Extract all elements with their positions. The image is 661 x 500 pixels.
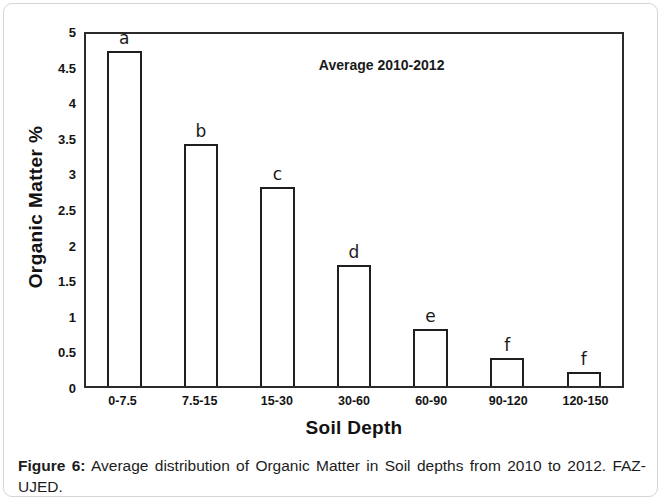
bar[interactable]: c (260, 187, 294, 386)
bar[interactable]: f (490, 358, 524, 386)
bar[interactable]: a (107, 51, 141, 386)
x-axis-tick-label: 15-30 (238, 394, 315, 408)
y-axis-tick-label: 0 (69, 381, 76, 396)
plot-inner: Average 2010-2012 abcdeff (86, 34, 622, 386)
bar-slot: a (86, 34, 163, 386)
bar[interactable]: d (337, 265, 371, 386)
bar-significance-label: f (504, 335, 510, 355)
y-axis-tick-labels: 54.543.532.521.510.50 (40, 32, 76, 388)
x-axis-tick-label: 0-7.5 (84, 394, 161, 408)
bar-significance-label: a (119, 28, 129, 48)
figure-caption-text: Average distribution of Organic Matter i… (18, 457, 646, 495)
plot-frame: Average 2010-2012 abcdeff (84, 32, 624, 388)
bar-chart: Organic Matter % 54.543.532.521.510.50 A… (0, 0, 661, 448)
y-axis-tick-label: 4.5 (58, 60, 76, 75)
bar-slot: e (392, 34, 469, 386)
x-axis-title: Soil Depth (84, 417, 624, 439)
bar-slot: c (239, 34, 316, 386)
x-axis-tick-label: 60-90 (393, 394, 470, 408)
bars-layer: abcdeff (86, 34, 622, 386)
y-axis-tick-label: 3 (69, 167, 76, 182)
y-axis-tick-label: 1.5 (58, 274, 76, 289)
bar[interactable]: e (413, 329, 447, 386)
x-axis-tick-label: 7.5-15 (161, 394, 238, 408)
figure-caption: Figure 6: Average distribution of Organi… (18, 455, 646, 497)
bar-slot: d (316, 34, 393, 386)
y-axis-tick-label: 1 (69, 309, 76, 324)
figure-container: Organic Matter % 54.543.532.521.510.50 A… (0, 0, 661, 500)
y-axis-tick-label: 0.5 (58, 345, 76, 360)
y-axis-tick-label: 2 (69, 238, 76, 253)
bar-significance-label: e (425, 306, 435, 326)
y-axis-tick-label: 5 (69, 25, 76, 40)
bar-slot: f (469, 34, 546, 386)
x-axis-tick-label: 90-120 (470, 394, 547, 408)
x-axis-tick-labels: 0-7.57.5-1515-3030-6060-9090-120120-150 (84, 394, 624, 408)
bar[interactable]: f (567, 372, 601, 386)
y-axis-tick-label: 4 (69, 96, 76, 111)
bar-significance-label: c (273, 164, 282, 184)
figure-caption-label: Figure 6: (18, 457, 86, 474)
bar-significance-label: f (581, 349, 587, 369)
bar-significance-label: b (195, 121, 206, 141)
bar-slot: f (545, 34, 622, 386)
y-axis-tick-label: 3.5 (58, 131, 76, 146)
bar-significance-label: d (349, 242, 360, 262)
x-axis-tick-label: 30-60 (315, 394, 392, 408)
bar[interactable]: b (184, 144, 218, 386)
y-axis-tick-label: 2.5 (58, 203, 76, 218)
bar-slot: b (163, 34, 240, 386)
x-axis-tick-label: 120-150 (547, 394, 624, 408)
